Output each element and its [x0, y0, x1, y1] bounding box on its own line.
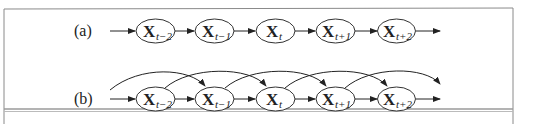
svg-text:t−2: t−2 — [156, 30, 172, 42]
svg-text:t−2: t−2 — [156, 98, 172, 110]
row-b-label: (b) — [74, 90, 93, 108]
svg-text:X: X — [143, 22, 156, 41]
row-b-second-order-chain: (b) X t−2 X t−1 X t X — [74, 71, 440, 111]
svg-text:t+1: t+1 — [335, 98, 351, 110]
svg-text:X: X — [266, 90, 279, 109]
svg-text:X: X — [143, 90, 156, 109]
svg-text:X: X — [322, 90, 335, 109]
svg-text:t+2: t+2 — [396, 30, 412, 42]
markov-chain-figure: (a) X t−2 X t−1 X t X t+1 X t — [0, 0, 533, 124]
row-a-first-order-chain: (a) X t−2 X t−1 X t X t+1 X t — [74, 19, 440, 43]
svg-text:X: X — [266, 22, 279, 41]
svg-text:X: X — [383, 22, 396, 41]
row-a-label: (a) — [74, 22, 92, 40]
svg-text:t−1: t−1 — [215, 30, 231, 42]
node-b-x-t-plus-2: X t+2 — [378, 87, 416, 111]
node-a-x-t-plus-2: X t+2 — [378, 19, 416, 43]
node-b-x-t-minus-2: X t−2 — [136, 87, 175, 111]
node-a-x-t-minus-2: X t−2 — [136, 19, 175, 43]
node-b-x-t: X t — [256, 87, 295, 111]
svg-text:t+2: t+2 — [396, 98, 412, 110]
svg-text:X: X — [202, 90, 215, 109]
node-b-x-t-minus-1: X t−1 — [195, 87, 234, 111]
node-a-x-t-plus-1: X t+1 — [316, 19, 355, 43]
svg-text:X: X — [202, 22, 215, 41]
svg-text:X: X — [383, 90, 396, 109]
svg-text:t−1: t−1 — [215, 98, 231, 110]
svg-text:t+1: t+1 — [335, 30, 351, 42]
node-a-x-t: X t — [256, 19, 295, 43]
node-b-x-t-plus-1: X t+1 — [316, 87, 355, 111]
svg-text:X: X — [322, 22, 335, 41]
node-a-x-t-minus-1: X t−1 — [195, 19, 234, 43]
